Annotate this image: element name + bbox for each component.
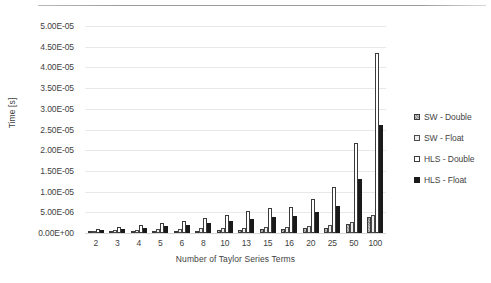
bar-group [279,26,301,233]
y-tick-label: 1.50E-05 [40,166,74,176]
bar [229,221,233,233]
y-tick-label: 2.00E-05 [40,145,74,155]
bar [272,217,276,233]
x-tick-label: 5 [150,238,172,248]
bar [121,229,125,233]
y-tick-label: 4.50E-05 [40,42,74,52]
top-divider [38,5,486,6]
y-tick-label: 2.50E-05 [40,125,74,135]
legend-item[interactable]: HLS - Float [414,175,474,185]
x-tick-label: 16 [279,238,301,248]
bar-chart: Time [s] 5.00E-054.50E-054.00E-053.50E-0… [0,0,491,283]
y-tick-label: 5.00E-05 [40,21,74,31]
x-tick-label: 50 [343,238,365,248]
y-tick-label: 5.00E-06 [40,207,74,217]
bar [186,225,190,233]
bar-group [150,26,172,233]
bar-group [257,26,279,233]
bar [336,206,340,233]
legend-label: SW - Double [424,112,472,122]
bar [250,219,254,233]
bar-group [322,26,344,233]
bar-group [214,26,236,233]
bar-group [193,26,215,233]
bar [315,212,319,233]
legend-label: HLS - Double [424,154,474,164]
bar-group [343,26,365,233]
gridline [85,233,386,234]
x-tick-label: 25 [322,238,344,248]
x-axis-tick-labels: 23456810131516202550100 [85,238,386,248]
y-tick-label: 3.50E-05 [40,83,74,93]
bar [358,179,362,233]
bar-group [236,26,258,233]
y-tick-label: 4.00E-05 [40,62,74,72]
y-axis-tick-labels: 5.00E-054.50E-054.00E-053.50E-053.00E-05… [0,0,80,283]
legend-label: HLS - Float [424,175,466,185]
x-tick-label: 10 [214,238,236,248]
bar-group [365,26,387,233]
bar [207,223,211,233]
bar-group [171,26,193,233]
x-tick-label: 3 [107,238,129,248]
bar-group [107,26,129,233]
bar-group [85,26,107,233]
x-tick-label: 20 [300,238,322,248]
x-tick-label: 100 [365,238,387,248]
x-tick-label: 2 [85,238,107,248]
x-tick-label: 8 [193,238,215,248]
legend-item[interactable]: HLS - Double [414,154,474,164]
legend: SW - DoubleSW - FloatHLS - DoubleHLS - F… [414,112,474,185]
y-tick-label: 1.00E-05 [40,187,74,197]
bar [164,226,168,233]
x-tick-label: 6 [171,238,193,248]
bar [379,125,383,233]
bar-series-container [85,26,386,233]
x-tick-label: 13 [236,238,258,248]
bar [293,216,297,233]
bar [100,230,104,233]
bar-group [300,26,322,233]
x-axis-title: Number of Taylor Series Terms [85,254,386,264]
plot-area [85,26,386,233]
legend-swatch-icon [414,156,420,162]
bar [143,228,147,233]
y-tick-label: 0.00E+00 [38,228,74,238]
y-tick-label: 3.00E-05 [40,104,74,114]
legend-item[interactable]: SW - Double [414,112,474,122]
legend-swatch-icon [414,177,420,183]
legend-item[interactable]: SW - Float [414,133,474,143]
legend-label: SW - Float [424,133,464,143]
legend-swatch-icon [414,135,420,141]
x-tick-label: 15 [257,238,279,248]
bar-group [128,26,150,233]
x-tick-label: 4 [128,238,150,248]
legend-swatch-icon [414,114,420,120]
